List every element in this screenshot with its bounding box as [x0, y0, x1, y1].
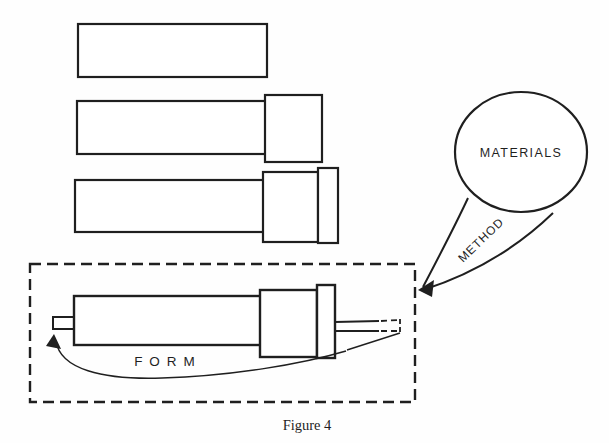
method-label: METHOD: [455, 215, 506, 265]
stage1-bar: [78, 24, 267, 77]
figure-caption: Figure 4: [283, 417, 332, 433]
final-form-collar: [317, 285, 335, 358]
figure-4-diagram: MATERIALS METHOD FORM Figure 4: [0, 0, 609, 443]
stage3-collar: [318, 168, 338, 243]
final-form-end-block: [260, 290, 317, 357]
stage2-end-block: [265, 95, 322, 162]
rod-leader-line: [347, 333, 400, 350]
final-form-body: [74, 296, 261, 345]
stage3-bar: [75, 180, 264, 232]
rod-hidden-top-dashes: [381, 320, 400, 321]
final-form-nub: [53, 317, 76, 329]
figure-page: MATERIALS METHOD FORM Figure 4: [0, 0, 609, 443]
stage3-end-block: [263, 172, 318, 242]
final-form-rod: [335, 319, 400, 333]
materials-label: MATERIALS: [480, 146, 563, 160]
method-funnel: [418, 198, 553, 297]
form-label: FORM: [134, 354, 202, 369]
stage2-bar: [77, 101, 266, 154]
form-arrowhead-icon: [46, 334, 61, 349]
funnel-left-curve: [423, 198, 468, 287]
